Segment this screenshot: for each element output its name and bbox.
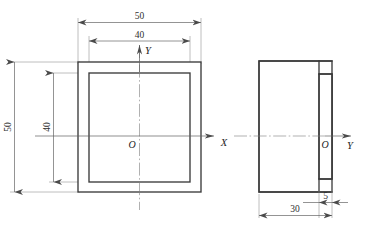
dimension-label-top-50: 50 bbox=[135, 11, 145, 21]
side-view-y-axis-label: Y bbox=[347, 140, 354, 151]
side-view-origin-label: O bbox=[321, 139, 328, 150]
technical-drawing-canvas: 50 40 50 40 Y X O bbox=[0, 0, 372, 229]
front-view-x-axis-label: X bbox=[220, 137, 228, 148]
front-view-group: 50 40 50 40 Y X O bbox=[3, 11, 228, 210]
side-view-group: 5 30 O Y bbox=[234, 61, 354, 218]
front-view-origin-label: O bbox=[128, 139, 135, 150]
dimension-label-top-40: 40 bbox=[135, 30, 145, 40]
dimension-label-flange-5: 5 bbox=[323, 191, 328, 201]
front-view-y-axis-label: Y bbox=[145, 45, 152, 56]
dimension-label-left-50: 50 bbox=[3, 122, 13, 132]
dimension-label-left-40: 40 bbox=[42, 122, 52, 132]
side-view-flange bbox=[319, 74, 332, 179]
dimension-label-main-30: 30 bbox=[290, 204, 300, 214]
technical-drawing-svg: 50 40 50 40 Y X O bbox=[0, 0, 372, 229]
